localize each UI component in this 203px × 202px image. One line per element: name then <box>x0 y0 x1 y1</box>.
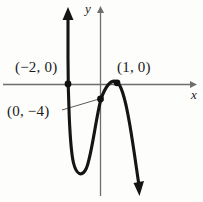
y-axis-arrow-icon <box>97 6 104 13</box>
cubic-curve <box>63 7 145 196</box>
y-axis-label: y <box>85 2 91 15</box>
point-1-0-dot <box>114 79 121 86</box>
graph-figure: (−2, 0) (1, 0) (0, −4) y x <box>0 0 203 202</box>
point-label-neg2-0: (−2, 0) <box>15 60 57 75</box>
curve-arrow-up-icon <box>63 7 74 20</box>
coordinate-plot <box>0 0 203 202</box>
curve-arrow-down-icon <box>134 181 145 196</box>
x-axis-label: x <box>191 88 197 101</box>
point-label-0-neg4: (0, −4) <box>7 104 49 119</box>
point-0-neg4-dot <box>97 96 104 103</box>
point-neg2-0-dot <box>65 81 72 88</box>
point-label-1-0: (1, 0) <box>117 60 151 75</box>
